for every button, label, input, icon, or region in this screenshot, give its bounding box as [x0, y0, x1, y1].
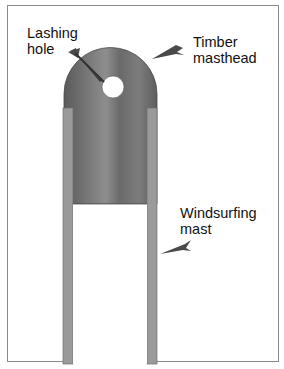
mast-tube-right — [147, 108, 157, 364]
label-windsurfing-mast: Windsurfing mast — [180, 205, 257, 237]
label-lashing-hole: Lashing hole — [27, 25, 78, 57]
arrow-icon-windsurfing-mast — [160, 240, 191, 254]
lashing-hole — [102, 76, 124, 98]
timber-masthead — [64, 48, 157, 204]
label-timber-masthead: Timber masthead — [193, 34, 257, 66]
arrow-icon-timber-masthead — [152, 45, 184, 59]
mast-interior — [73, 204, 147, 364]
mast-tube-left — [63, 108, 73, 364]
